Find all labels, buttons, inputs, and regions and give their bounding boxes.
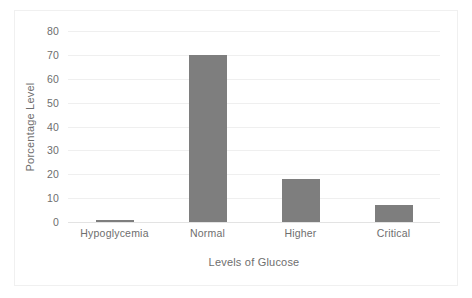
bar-chart-figure: Porcentage Level 01020304050607080 Hypog… bbox=[0, 0, 472, 298]
y-axis-tick-label: 30 bbox=[47, 144, 59, 156]
x-axis-title: Levels of Glucose bbox=[68, 256, 440, 268]
y-axis-tick-label: 80 bbox=[47, 25, 59, 37]
gridline bbox=[68, 222, 440, 223]
y-axis-title: Porcentage Level bbox=[22, 31, 38, 222]
x-axis-tick-label: Higher bbox=[254, 227, 347, 239]
x-axis-tick-labels: HypoglycemiaNormalHigherCritical bbox=[68, 227, 440, 239]
y-axis-tick-label: 40 bbox=[47, 121, 59, 133]
x-axis-tick-label: Critical bbox=[347, 227, 440, 239]
bar bbox=[375, 205, 413, 222]
bar-slot bbox=[254, 31, 347, 222]
bar bbox=[96, 220, 134, 222]
bar-slot bbox=[161, 31, 254, 222]
x-axis-tick-label: Normal bbox=[161, 227, 254, 239]
x-axis-tick-label: Hypoglycemia bbox=[68, 227, 161, 239]
bar bbox=[282, 179, 320, 222]
y-axis-tick-label: 0 bbox=[53, 216, 59, 228]
plot-area: 01020304050607080 bbox=[68, 31, 440, 222]
y-axis-tick-label: 70 bbox=[47, 49, 59, 61]
y-axis-tick-label: 50 bbox=[47, 97, 59, 109]
bar-series bbox=[68, 31, 440, 222]
y-axis-tick-label: 20 bbox=[47, 168, 59, 180]
bar-slot bbox=[68, 31, 161, 222]
bar bbox=[189, 55, 227, 222]
y-axis-title-text: Porcentage Level bbox=[24, 82, 36, 171]
y-axis-tick-label: 10 bbox=[47, 192, 59, 204]
bar-slot bbox=[347, 31, 440, 222]
y-axis-tick-label: 60 bbox=[47, 73, 59, 85]
